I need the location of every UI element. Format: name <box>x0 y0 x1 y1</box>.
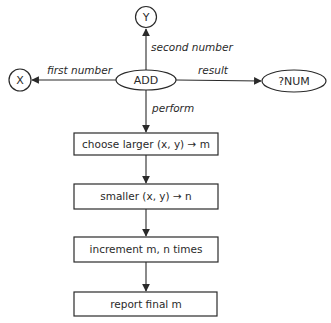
step-box-3: increment m, n times <box>74 237 218 262</box>
edge-label-first-number: first number <box>47 64 113 76</box>
node-add-label: ADD <box>134 74 158 87</box>
edge-label-perform: perform <box>151 102 194 114</box>
node-add: ADD <box>116 70 176 90</box>
edge-to-result <box>176 80 261 81</box>
node-result: ?NUM <box>262 70 326 92</box>
step-3-label: increment m, n times <box>90 243 203 255</box>
step-2-label: smaller (x, y) → n <box>100 190 192 202</box>
step-box-1: choose larger (x, y) → m <box>74 133 218 155</box>
node-x-label: X <box>16 74 24 87</box>
node-x: X <box>9 69 31 91</box>
node-y-label: Y <box>142 11 150 24</box>
step-4-label: report final m <box>110 298 182 310</box>
edge-label-result: result <box>198 64 229 76</box>
step-box-2: smaller (x, y) → n <box>74 184 218 209</box>
edge-label-second-number: second number <box>151 41 233 53</box>
node-y: Y <box>136 7 157 28</box>
add-procedure-diagram: second number first number result perfor… <box>0 0 331 323</box>
step-box-4: report final m <box>74 292 217 316</box>
step-1-label: choose larger (x, y) → m <box>82 138 210 150</box>
node-result-label: ?NUM <box>278 75 310 88</box>
